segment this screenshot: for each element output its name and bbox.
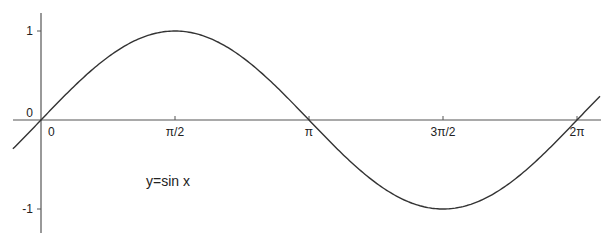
sine-chart: 0π/2π3π/22π10-1 y=sin x	[0, 0, 609, 235]
y-tick-label: 1	[26, 24, 33, 38]
x-tick-label: 0	[48, 125, 55, 139]
y-tick-label: 0	[26, 106, 33, 120]
function-label: y=sin x	[146, 173, 190, 189]
x-tick-label: π	[305, 125, 313, 139]
x-tick-label: 3π/2	[431, 125, 456, 139]
x-tick-label: π/2	[166, 125, 185, 139]
axes	[13, 13, 601, 233]
y-tick-label: -1	[22, 202, 33, 216]
x-tick-label: 2π	[570, 125, 585, 139]
